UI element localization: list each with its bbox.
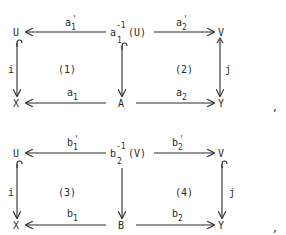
cell-label-1: (1) [58,64,76,75]
cell-label-4: (4) [175,187,193,198]
node-Y: Y [218,98,224,109]
label-b1-prime: b ' 1 [67,135,79,152]
svg-text:1: 1 [73,214,78,223]
node-V: V [218,148,224,159]
node-B: B [118,220,124,231]
svg-text:2: 2 [182,93,187,102]
diagram-1: U a -1 1 (U) V X A Y a ' 1 a ' 2 a 1 [8,15,278,113]
comma: , [272,223,278,234]
label-b1: b 1 [67,208,78,223]
hook-middle [122,43,127,50]
label-a2: a 2 [176,87,187,102]
hook-left [17,40,22,47]
label-i: i [8,187,14,198]
commutative-diagrams: U a -1 1 (U) V X A Y a ' 1 a ' 2 a 1 [0,0,286,235]
svg-text:-1: -1 [116,142,126,151]
svg-text:(U): (U) [128,27,146,38]
label-j: j [225,64,231,75]
label-j: j [229,187,235,198]
svg-text:2: 2 [117,157,122,166]
node-b2-inverse-V: b -1 2 (V) [110,142,146,166]
label-a1-prime: a ' 1 [65,15,77,32]
diagram-2: U b -1 2 (V) V X B Y b ' 1 b ' 2 b 1 b [8,135,278,234]
svg-text:1: 1 [117,36,122,45]
node-U: U [13,27,19,38]
node-Y: Y [218,220,224,231]
hook-right [222,161,227,168]
label-b2-prime: b ' 2 [172,135,184,152]
svg-text:1: 1 [71,23,76,32]
comma: , [272,102,278,113]
svg-text:1: 1 [73,143,78,152]
node-X: X [13,98,19,109]
svg-text:1: 1 [73,93,78,102]
node-V: V [218,27,224,38]
node-U: U [13,148,19,159]
hook-left [17,161,22,168]
svg-text:2: 2 [178,214,183,223]
label-b2: b 2 [172,208,183,223]
cell-label-2: (2) [175,64,193,75]
label-a2-prime: a ' 2 [176,15,188,32]
svg-text:-1: -1 [116,21,126,30]
svg-text:(V): (V) [128,148,146,159]
svg-text:2: 2 [178,143,183,152]
node-a1-inverse-U: a -1 1 (U) [110,21,146,45]
label-i: i [8,64,14,75]
label-a1: a 1 [67,87,78,102]
node-A: A [118,98,124,109]
svg-text:2: 2 [182,23,187,32]
cell-label-3: (3) [58,187,76,198]
node-X: X [13,220,19,231]
